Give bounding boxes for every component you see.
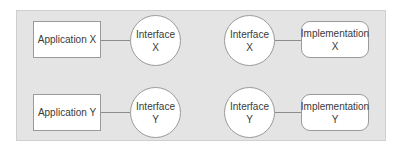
interface-y-left-circle: Interface Y — [130, 87, 181, 138]
interface-x-right-label-line2: X — [246, 41, 253, 54]
interface-x-right-circle: Interface X — [224, 15, 275, 66]
interface-y-left-label-line2: Y — [152, 113, 159, 126]
implementation-x-box: Implementation X — [301, 21, 369, 58]
interface-y-left-label-line1: Interface — [136, 100, 175, 113]
interface-y-right-label-line1: Interface — [230, 100, 269, 113]
connector-interface-x-implementation-x — [274, 40, 301, 41]
interface-y-right-circle: Interface Y — [224, 87, 275, 138]
application-x-label: Application X — [38, 33, 96, 46]
implementation-y-label-line1: Implementation — [301, 100, 369, 113]
application-x-box: Application X — [33, 21, 101, 58]
connector-app-x-interface-x — [101, 40, 131, 41]
implementation-y-box: Implementation Y — [301, 94, 369, 131]
implementation-x-label-line1: Implementation — [301, 27, 369, 40]
interface-x-right-label-line1: Interface — [230, 28, 269, 41]
application-y-box: Application Y — [33, 94, 101, 131]
interface-x-left-label-line2: X — [152, 41, 159, 54]
connector-app-y-interface-y — [101, 112, 131, 113]
interface-x-left-circle: Interface X — [130, 15, 181, 66]
connector-interface-y-implementation-y — [274, 112, 301, 113]
implementation-x-label-line2: X — [332, 40, 339, 53]
interface-y-right-label-line2: Y — [246, 113, 253, 126]
application-y-label: Application Y — [38, 106, 96, 119]
implementation-y-label-line2: Y — [332, 113, 339, 126]
interface-x-left-label-line1: Interface — [136, 28, 175, 41]
